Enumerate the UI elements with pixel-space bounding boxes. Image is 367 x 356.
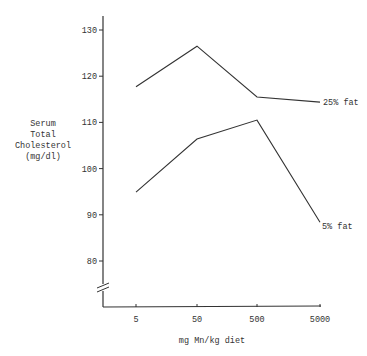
x-tick-label: 50	[192, 315, 202, 325]
y-tick-label: 100	[82, 165, 97, 175]
y-axis-title: SerumTotalCholesterol(mg/dl)	[15, 119, 71, 162]
series-line	[136, 46, 320, 102]
series-label: 25% fat	[323, 98, 359, 108]
y-tick-label: 90	[87, 211, 97, 221]
x-tick-label: 5	[133, 315, 138, 325]
series-lines: 25% fat5% fat	[136, 46, 359, 232]
x-axis-title: mg Mn/kg diet	[179, 336, 245, 346]
y-tick-label: 110	[82, 118, 97, 128]
x-tick-label: 5000	[310, 315, 330, 325]
y-tick-label: 80	[87, 257, 97, 267]
y-tick-label: 120	[82, 72, 97, 82]
line-chart: 8090100110120130 5505005000 25% fat5% fa…	[0, 0, 367, 356]
x-tick-label: 500	[249, 315, 264, 325]
series-label: 5% fat	[322, 222, 353, 232]
series-line	[136, 120, 320, 222]
axis-break-icon	[97, 283, 109, 292]
y-ticks: 8090100110120130	[82, 26, 103, 267]
y-tick-label: 130	[82, 26, 97, 36]
